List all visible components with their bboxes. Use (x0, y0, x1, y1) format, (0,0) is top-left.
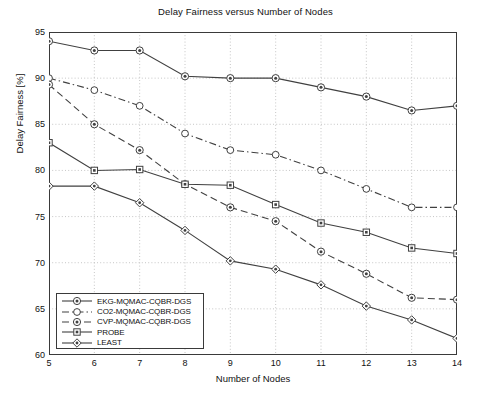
legend-marker-icon (60, 296, 94, 306)
legend-marker-icon (60, 317, 94, 327)
legend-item-label: CVP-MQMAC-CQBR-DGS (94, 317, 191, 326)
x-tick-label: 5 (34, 358, 64, 368)
y-tick-label: 80 (5, 165, 45, 175)
x-tick-label: 11 (306, 358, 336, 368)
legend-item[interactable]: EKG-MQMAC-CQBR-DGS (60, 296, 200, 306)
y-tick-label: 75 (5, 212, 45, 222)
x-tick-label: 14 (442, 358, 472, 368)
series-3 (49, 140, 457, 257)
page-title: Delay Fairness versus Number of Nodes (0, 6, 491, 17)
x-tick-label: 10 (261, 358, 291, 368)
x-tick-label: 8 (170, 358, 200, 368)
x-tick-label: 12 (351, 358, 381, 368)
legend-item-label: CO2-MQMAC-CQBR-DGS (94, 307, 191, 316)
legend-item[interactable]: CO2-MQMAC-CQBR-DGS (60, 306, 200, 316)
legend-item-label: LEAST (94, 338, 122, 347)
x-tick-label: 13 (397, 358, 427, 368)
y-tick-label: 85 (5, 119, 45, 129)
x-tick-label: 9 (215, 358, 245, 368)
series-0 (49, 38, 457, 114)
legend-item-label: EKG-MQMAC-CQBR-DGS (94, 297, 191, 306)
legend-item[interactable]: CVP-MQMAC-CQBR-DGS (60, 317, 200, 327)
legend-item[interactable]: LEAST (60, 338, 200, 348)
y-tick-label: 95 (5, 27, 45, 37)
x-tick-label: 7 (125, 358, 155, 368)
legend-item-label: PROBE (94, 328, 125, 337)
x-tick-label: 6 (79, 358, 109, 368)
legend: EKG-MQMAC-CQBR-DGSCO2-MQMAC-CQBR-DGSCVP-… (56, 293, 204, 349)
y-tick-label: 90 (5, 73, 45, 83)
series-1 (49, 75, 457, 211)
legend-marker-icon (60, 307, 94, 317)
y-tick-label: 70 (5, 258, 45, 268)
y-axis-ticks: 6065707580859095 (4, 32, 45, 355)
legend-marker-icon (60, 327, 94, 337)
legend-marker-icon (60, 338, 94, 348)
legend-item[interactable]: PROBE (60, 327, 200, 337)
y-tick-label: 65 (5, 304, 45, 314)
x-axis-label: Number of Nodes (49, 373, 457, 384)
figure: Delay Fairness versus Number of Nodes De… (0, 0, 491, 400)
x-axis-ticks: 567891011121314 (49, 358, 457, 372)
